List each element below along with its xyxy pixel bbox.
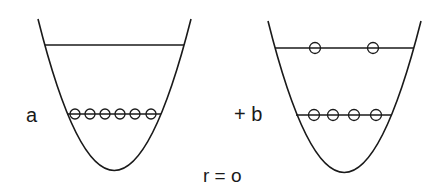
well-a-potential-curve: [38, 19, 191, 171]
label-a: a: [26, 104, 38, 126]
label-b: + b: [234, 103, 262, 125]
well-b: [268, 21, 421, 173]
diagram-canvas: a + b r = o: [0, 0, 438, 189]
well-a: [38, 19, 191, 171]
well-b-potential-curve: [268, 21, 421, 173]
label-r-equals-o: r = o: [203, 165, 242, 186]
